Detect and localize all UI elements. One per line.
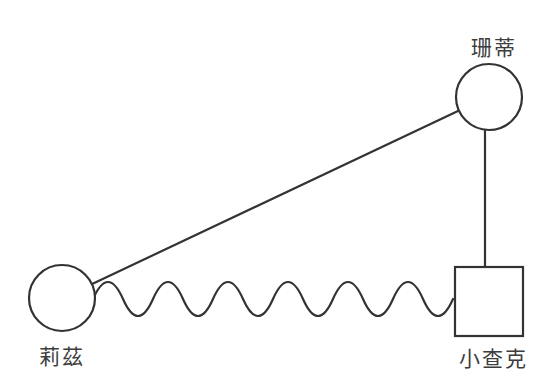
edge-liz-chuck-wavy (93, 282, 453, 316)
node-sandy-circle (456, 64, 522, 130)
node-liz-circle (29, 265, 95, 331)
node-chuck-square (455, 267, 523, 336)
relationship-diagram: 珊蒂 莉茲 小查克 (0, 0, 552, 390)
edge-liz-sandy (90, 111, 458, 285)
label-sandy: 珊蒂 (471, 36, 517, 59)
label-chuck: 小查克 (459, 347, 528, 370)
diagram-canvas: 珊蒂 莉茲 小查克 (0, 0, 552, 390)
label-liz: 莉茲 (39, 345, 85, 368)
